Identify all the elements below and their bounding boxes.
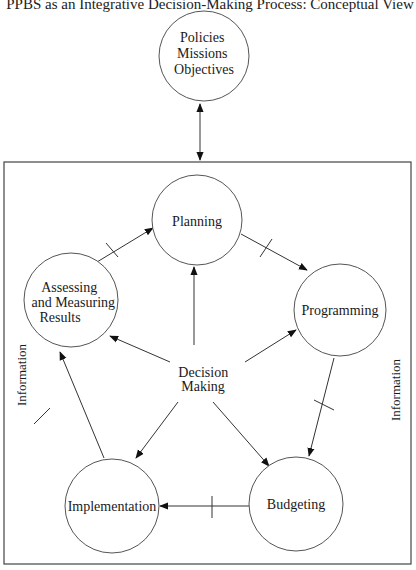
edge-tick	[314, 400, 334, 410]
edge-tick	[34, 408, 50, 424]
edge-decision-implementation	[136, 402, 178, 458]
side-label-right: Information	[388, 358, 403, 421]
planning-label: Planning	[172, 214, 222, 229]
edge-programming-budgeting	[309, 358, 334, 456]
node-assessing: Assessing and Measuring Results	[24, 253, 119, 347]
edge-implementation-assessing	[60, 352, 104, 458]
policies-line-2: Missions	[177, 46, 228, 61]
edge-assessing-planning	[97, 228, 153, 262]
edge-decision-programming	[245, 330, 296, 362]
node-budgeting: Budgeting	[249, 457, 343, 551]
policies-line-3: Objectives	[174, 62, 234, 77]
assessing-line-2: and Measuring	[31, 295, 115, 310]
budgeting-label: Budgeting	[267, 497, 325, 512]
node-programming: Programming	[294, 264, 386, 356]
decision-making-label: Decision Making	[178, 365, 231, 394]
assessing-line-1: Assessing	[41, 280, 97, 295]
svg-text:Policies Missions: Policies Missions Objectives	[174, 30, 234, 77]
diagram-title: PPBS as an Integrative Decision-Making P…	[6, 0, 414, 12]
edge-planning-programming	[241, 234, 307, 270]
node-planning: Planning	[152, 175, 242, 265]
node-policies: Policies Missions Objectives	[159, 11, 249, 101]
assessing-line-3: Results	[39, 310, 80, 325]
edge-decision-budgeting	[213, 402, 269, 466]
policies-line-1: Policies	[180, 30, 224, 45]
programming-label: Programming	[302, 303, 379, 318]
edge-tick	[260, 239, 272, 257]
side-label-left: Information	[14, 343, 29, 406]
node-implementation: Implementation	[65, 459, 159, 553]
implementation-label: Implementation	[68, 499, 157, 514]
edge-decision-assessing	[110, 336, 170, 362]
ppbs-diagram: PPBS as an Integrative Decision-Making P…	[0, 0, 416, 570]
